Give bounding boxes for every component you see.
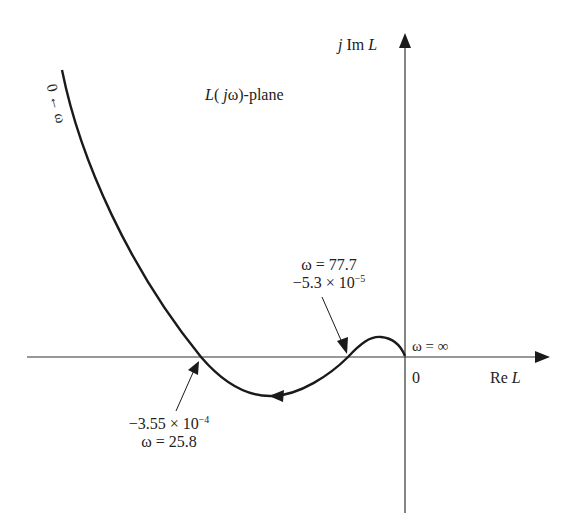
nyquist-diagram: 0 ← ω L( jω)-plane j Im L Re L 0 ω = ∞ ω… [0, 0, 573, 531]
real-axis-label: Re L [490, 369, 521, 387]
real-axis-label-L: L [512, 369, 521, 386]
omega-infinity-label: ω = ∞ [412, 337, 449, 355]
left-crossing-value: −3.55 × 10−4 [104, 415, 234, 433]
left-crossing-omega: ω = 25.8 [104, 433, 234, 451]
real-axis-label-re: Re [490, 369, 512, 386]
right-annotation-leader [322, 297, 344, 347]
left-crossing-annotation: −3.55 × 10−4 ω = 25.8 [104, 415, 234, 451]
nyquist-curve [62, 70, 405, 396]
right-annotation-arrow-icon [337, 337, 348, 354]
plane-label-omega: ω [228, 86, 239, 103]
imag-axis-label-L: L [368, 36, 377, 53]
right-crossing-annotation: ω = 77.7 −5.3 × 10−5 [264, 256, 394, 292]
right-crossing-exp: −5 [355, 273, 366, 284]
curve-direction-arrow-icon [269, 390, 284, 402]
imag-axis-label: j Im L [338, 36, 377, 54]
imag-axis-arrow-icon [399, 33, 411, 48]
right-crossing-omega: ω = 77.7 [264, 256, 394, 274]
plane-label-rest: )-plane [238, 86, 283, 103]
left-annotation-leader [176, 368, 195, 411]
plane-label-j: j [219, 86, 227, 103]
left-annotation-arrow-icon [188, 361, 199, 375]
left-crossing-base: −3.55 × 10 [129, 415, 199, 432]
real-axis-arrow-icon [535, 351, 550, 363]
left-crossing-exp: −4 [199, 414, 210, 425]
right-crossing-value: −5.3 × 10−5 [264, 274, 394, 292]
imag-axis-label-im: Im [342, 36, 368, 53]
plane-label-L: L [205, 86, 214, 103]
origin-label: 0 [412, 369, 420, 387]
plane-label: L( jω)-plane [205, 86, 284, 104]
right-crossing-base: −5.3 × 10 [293, 274, 355, 291]
